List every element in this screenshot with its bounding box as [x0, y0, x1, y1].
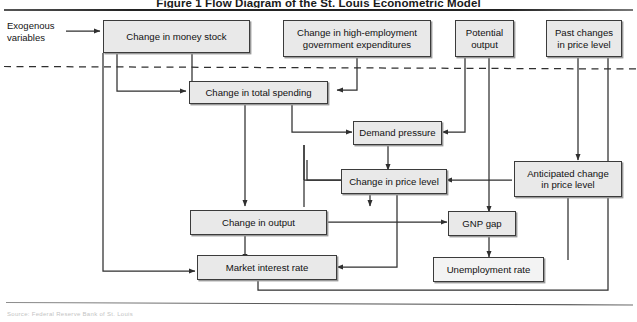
node-market-interest-rate[interactable]: Market interest rate: [197, 255, 337, 280]
node-money-stock-label: Change in money stock: [126, 31, 226, 42]
node-gov-expenditures-label-line1: Change in high-employment: [297, 27, 417, 38]
node-potential-output-label-line1: Potential: [466, 27, 503, 38]
node-gnp-gap-label: GNP gap: [462, 218, 501, 229]
node-past-price-changes[interactable]: Past changes in price level: [546, 20, 622, 57]
node-gnp-gap[interactable]: GNP gap: [448, 211, 516, 236]
node-potential-output-label-line2: output: [471, 39, 498, 50]
node-demand-pressure[interactable]: Demand pressure: [353, 121, 442, 145]
node-past-price-changes-label-line1: Past changes: [555, 27, 613, 38]
exogenous-variables-label: Exogenous variables: [7, 20, 87, 43]
node-unemployment-rate[interactable]: Unemployment rate: [433, 257, 544, 282]
node-past-price-changes-label-line2: in price level: [557, 39, 610, 50]
node-output-change[interactable]: Change in output: [190, 210, 327, 235]
figure-page: Figure 1 Flow Diagram of the St. Louis E…: [0, 0, 637, 322]
node-output-change-label: Change in output: [222, 217, 295, 228]
node-anticipated-price-label-line1: Anticipated change: [527, 168, 609, 179]
node-demand-pressure-label: Demand pressure: [359, 127, 435, 138]
exogenous-endogenous-divider: [4, 67, 636, 70]
node-money-stock[interactable]: Change in money stock: [103, 20, 250, 53]
node-total-spending[interactable]: Change in total spending: [189, 81, 328, 104]
node-gov-expenditures[interactable]: Change in high-employment government exp…: [283, 20, 431, 57]
node-market-interest-rate-label: Market interest rate: [226, 262, 309, 273]
node-gov-expenditures-label-line2: government expenditures: [303, 39, 411, 50]
node-price-level-change[interactable]: Change in price level: [341, 169, 447, 194]
figure-caption: Source: Federal Reserve Bank of St. Loui…: [7, 311, 133, 317]
exogenous-variables-label-line1: Exogenous: [7, 20, 55, 31]
node-unemployment-rate-label: Unemployment rate: [447, 264, 531, 275]
node-total-spending-label: Change in total spending: [205, 87, 311, 98]
node-anticipated-price-label-line2: in price level: [541, 179, 594, 190]
node-price-level-change-label: Change in price level: [349, 176, 439, 187]
node-potential-output[interactable]: Potential output: [455, 20, 514, 57]
exogenous-variables-label-line2: variables: [7, 32, 45, 43]
node-anticipated-price[interactable]: Anticipated change in price level: [514, 161, 622, 197]
